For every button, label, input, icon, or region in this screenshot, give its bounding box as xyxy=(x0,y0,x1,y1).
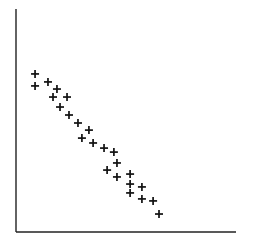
plus-marker xyxy=(113,159,121,167)
plus-marker xyxy=(138,195,146,203)
scatter-plot xyxy=(0,0,253,244)
plus-marker xyxy=(78,134,86,142)
plus-marker xyxy=(63,93,71,101)
plus-marker xyxy=(89,139,97,147)
plus-marker xyxy=(74,119,82,127)
plus-marker xyxy=(53,85,61,93)
data-points xyxy=(31,70,163,218)
plus-marker xyxy=(126,170,134,178)
plus-marker xyxy=(49,93,57,101)
plus-marker xyxy=(31,82,39,90)
plus-marker xyxy=(110,148,118,156)
plus-marker xyxy=(138,183,146,191)
plus-marker xyxy=(113,173,121,181)
plus-marker xyxy=(56,103,64,111)
plus-marker xyxy=(149,197,157,205)
plus-marker xyxy=(103,166,111,174)
plus-marker xyxy=(126,180,134,188)
plus-marker xyxy=(31,70,39,78)
plus-marker xyxy=(44,78,52,86)
plus-marker xyxy=(85,126,93,134)
plus-marker xyxy=(100,144,108,152)
plus-marker xyxy=(126,189,134,197)
plus-marker xyxy=(65,111,73,119)
plus-marker xyxy=(155,210,163,218)
